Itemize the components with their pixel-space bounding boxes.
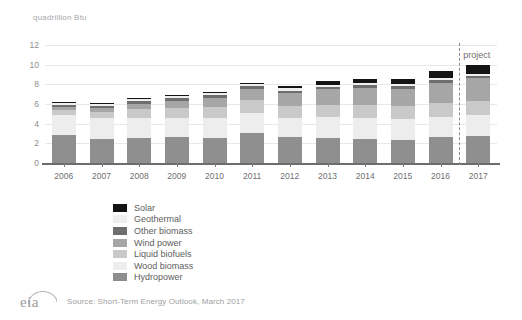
x-axis-tick-label: 2007 [92, 171, 111, 181]
bar-segment [90, 139, 114, 163]
bar-segment [316, 138, 340, 163]
eia-logo: eia [18, 291, 58, 311]
bar-stack[interactable] [127, 98, 151, 163]
legend-item[interactable]: Solar [113, 202, 193, 214]
x-axis-tick-label: 2006 [54, 171, 73, 181]
bar-segment [52, 115, 76, 135]
bar-segment [165, 137, 189, 163]
bar-stack[interactable] [466, 65, 490, 163]
bar-segment [127, 138, 151, 163]
bar-segment [429, 83, 453, 104]
x-axis-tick-label: 2015 [393, 171, 412, 181]
legend-label: Solar [134, 203, 155, 213]
legend-label: Liquid biofuels [134, 249, 192, 259]
bar-stack[interactable] [316, 81, 340, 163]
bar-segment [278, 118, 302, 137]
legend-swatch [113, 262, 127, 270]
source-note: Source: Short-Term Energy Outlook, March… [67, 297, 245, 306]
legend-item[interactable]: Liquid biofuels [113, 248, 193, 260]
bar-segment [278, 137, 302, 163]
x-axis-tick [403, 163, 404, 167]
x-axis-tick-label: 2012 [280, 171, 299, 181]
bar-segment [127, 109, 151, 118]
chart-legend: SolarGeothermalOther biomassWind powerLi… [113, 202, 193, 283]
bar-segment [466, 136, 490, 163]
x-axis-tick-label: 2016 [431, 171, 450, 181]
bar-segment [165, 118, 189, 137]
x-axis-baseline [42, 163, 500, 165]
legend-item[interactable]: Wood biomass [113, 260, 193, 272]
y-axis-tick-label: 6 [34, 99, 39, 109]
bar-stack[interactable] [240, 83, 264, 163]
legend-swatch [113, 250, 127, 258]
bar-segment [429, 71, 453, 78]
y-axis-tick-label: 0 [34, 158, 39, 168]
x-axis-tick-label: 2008 [130, 171, 149, 181]
x-axis-tick [365, 163, 366, 167]
bar-segment [127, 118, 151, 138]
bar-stack[interactable] [278, 86, 302, 163]
bar-stack[interactable] [353, 79, 377, 163]
bar-segment [240, 113, 264, 133]
legend-label: Hydropower [134, 272, 183, 282]
y-axis-tick-label: 10 [30, 60, 39, 70]
bar-segment [316, 105, 340, 117]
y-axis-tick-label: 8 [34, 79, 39, 89]
y-axis-unit-label: quadrillion Btu [33, 13, 87, 22]
legend-label: Other biomass [134, 226, 193, 236]
bar-segment [240, 133, 264, 163]
legend-swatch [113, 239, 127, 247]
legend-item[interactable]: Wind power [113, 237, 193, 249]
x-axis-tick [290, 163, 291, 167]
legend-item[interactable]: Other biomass [113, 225, 193, 237]
projection-divider-line [459, 43, 460, 165]
x-axis-tick [328, 163, 329, 167]
bar-segment [90, 118, 114, 138]
x-axis-tick [102, 163, 103, 167]
x-axis-tick-label: 2017 [469, 171, 488, 181]
bar-segment [165, 108, 189, 118]
y-axis-tick-label: 2 [34, 138, 39, 148]
legend-item[interactable]: Geothermal [113, 214, 193, 226]
bar-segment [353, 105, 377, 118]
bar-segment [90, 112, 114, 119]
x-axis-tick-label: 2014 [356, 171, 375, 181]
bar-segment [316, 89, 340, 105]
eia-logo-text: eia [20, 294, 39, 311]
x-axis-tick [252, 163, 253, 167]
bar-stack[interactable] [429, 71, 453, 163]
x-axis-tick [177, 163, 178, 167]
bar-stack[interactable] [391, 79, 415, 163]
bar-segment [52, 135, 76, 163]
bar-segment [429, 103, 453, 117]
bar-segment [203, 118, 227, 138]
bar-segment [240, 89, 264, 101]
bar-segment [203, 138, 227, 163]
bar-segment [278, 93, 302, 106]
bar-segment [278, 106, 302, 118]
x-axis-tick-label: 2011 [243, 171, 261, 181]
legend-item[interactable]: Hydropower [113, 272, 193, 284]
legend-label: Geothermal [134, 214, 181, 224]
plot-area: 024681012 200620072008200920102011201220… [45, 45, 497, 163]
bar-stack[interactable] [90, 103, 114, 163]
bar-stack[interactable] [165, 95, 189, 163]
x-axis-tick-label: 2010 [205, 171, 224, 181]
legend-swatch [113, 215, 127, 223]
bar-segment [466, 65, 490, 74]
x-axis-tick [64, 163, 65, 167]
legend-swatch [113, 273, 127, 281]
bar-segment [466, 101, 490, 115]
bar-segment [203, 98, 227, 107]
bar-segment [353, 139, 377, 163]
bar-stack[interactable] [52, 102, 76, 163]
legend-swatch [113, 204, 127, 212]
bar-stack[interactable] [203, 92, 227, 163]
x-axis-tick [441, 163, 442, 167]
bar-segment [165, 101, 189, 108]
bar-segment [391, 106, 415, 119]
y-axis-tick-label: 4 [34, 119, 39, 129]
x-axis-tick [215, 163, 216, 167]
legend-label: Wood biomass [134, 261, 193, 271]
y-axis-tick-label: 12 [30, 40, 39, 50]
